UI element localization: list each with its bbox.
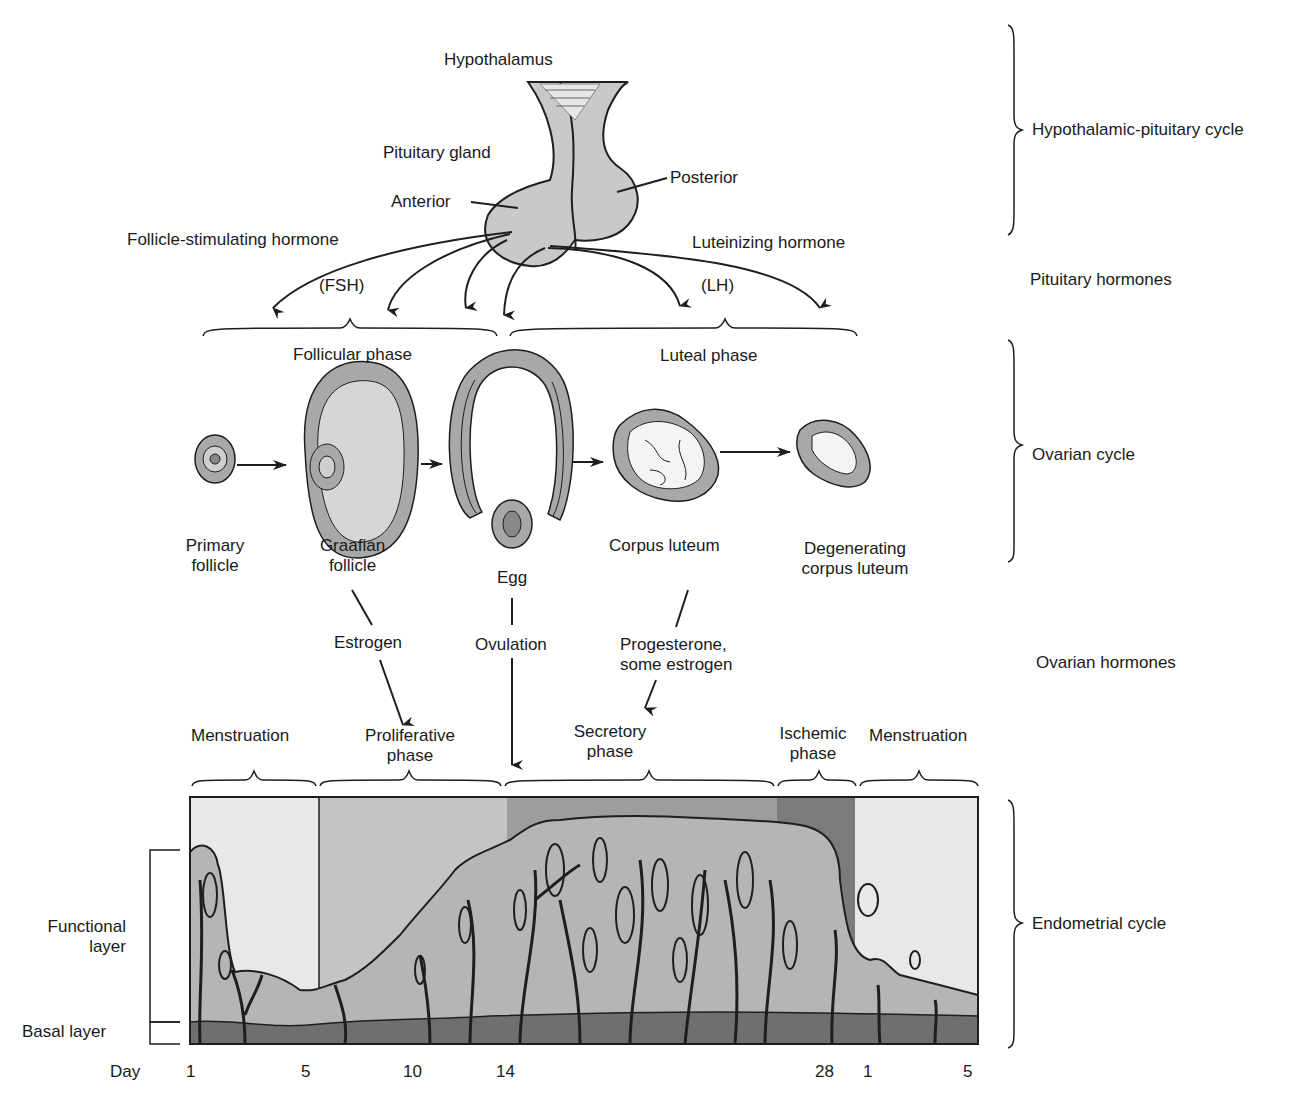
day-tick: 28 — [815, 1062, 834, 1082]
ovarian-cycle-label: Ovarian cycle — [1032, 445, 1135, 465]
day-tick: 5 — [301, 1062, 310, 1082]
pituitary-hormones-label: Pituitary hormones — [1030, 270, 1172, 290]
section-braces — [1008, 25, 1022, 1048]
luteal-phase-label: Luteal phase — [660, 346, 757, 366]
estrogen-label: Estrogen — [334, 633, 402, 653]
secretory-phase-label: Secretory phase — [555, 722, 665, 762]
ovarian-phase-braces — [203, 319, 857, 336]
pituitary-gland-illustration — [471, 82, 667, 266]
follicular-phase-label: Follicular phase — [293, 345, 412, 365]
functional-layer-label: Functional layer — [20, 917, 126, 957]
layer-brackets — [150, 850, 180, 1044]
graafian-follicle-label: Graafian follicle — [300, 536, 405, 576]
progesterone-label: Progesterone, some estrogen — [620, 635, 732, 675]
pituitary-gland-label: Pituitary gland — [383, 143, 491, 163]
ovarian-hormones-label: Ovarian hormones — [1036, 653, 1176, 673]
day-tick: 10 — [403, 1062, 422, 1082]
fsh-abbr-label: (FSH) — [319, 276, 364, 296]
menstruation-label-2: Menstruation — [869, 726, 967, 746]
primary-follicle-label: Primary follicle — [170, 536, 260, 576]
lh-name-label: Luteinizing hormone — [692, 233, 845, 253]
day-tick: 14 — [496, 1062, 515, 1082]
ovulation-label: Ovulation — [475, 635, 547, 655]
ovarian-structures — [195, 350, 870, 558]
day-tick: 1 — [186, 1062, 195, 1082]
ischemic-phase-label: Ischemic phase — [768, 724, 858, 764]
day-tick: 1 — [863, 1062, 872, 1082]
basal-layer-label: Basal layer — [22, 1022, 106, 1042]
endometrial-phase-braces — [192, 771, 978, 786]
corpus-luteum-label: Corpus luteum — [609, 536, 720, 556]
egg-icon — [492, 500, 532, 548]
posterior-label: Posterior — [670, 168, 738, 188]
menstruation-label-1: Menstruation — [191, 726, 289, 746]
primary-follicle-icon — [195, 435, 235, 483]
pituitary-shape — [485, 82, 638, 266]
fsh-name-label: Follicle-stimulating hormone — [127, 230, 339, 250]
anterior-label: Anterior — [391, 192, 451, 212]
endometrial-cycle-label: Endometrial cycle — [1032, 914, 1166, 934]
degenerating-corpus-luteum-label: Degenerating corpus luteum — [780, 539, 930, 579]
hypothalamus-label: Hypothalamus — [444, 50, 553, 70]
day-axis-label: Day — [110, 1062, 140, 1082]
proliferative-phase-label: Proliferative phase — [340, 726, 480, 766]
hypothalamic-pituitary-cycle-label: Hypothalamic-pituitary cycle — [1032, 120, 1244, 140]
endometrial-chart — [190, 797, 978, 1044]
day-tick: 5 — [963, 1062, 972, 1082]
lh-abbr-label: (LH) — [701, 276, 734, 296]
degenerating-corpus-luteum-icon — [797, 420, 870, 487]
egg-label: Egg — [482, 568, 542, 588]
ruptured-follicle-icon — [449, 350, 573, 520]
corpus-luteum-icon — [613, 409, 718, 501]
graafian-follicle-icon — [305, 362, 419, 559]
